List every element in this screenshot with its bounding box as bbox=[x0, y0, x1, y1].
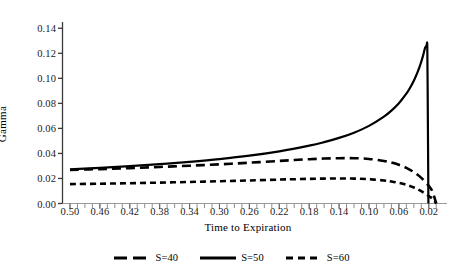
x-axis-tick-label: 0.50 bbox=[61, 206, 80, 217]
gamma-vs-time-to-expiration-chart: 0.000.020.040.060.080.100.120.14 0.500.4… bbox=[0, 0, 464, 280]
legend-swatch-s60 bbox=[286, 253, 322, 263]
legend-entry-s60[interactable]: S=60 bbox=[286, 252, 350, 263]
y-axis-tick-label: 0.04 bbox=[12, 148, 56, 159]
legend-entry-s40[interactable]: S=40 bbox=[114, 252, 178, 263]
x-axis-tick-label: 0.10 bbox=[360, 206, 379, 217]
x-axis-tick-label: 0.38 bbox=[150, 206, 169, 217]
series-line-s60 bbox=[70, 178, 436, 203]
x-axis-title: Time to Expiration bbox=[205, 221, 292, 233]
y-axis-tick-label: 0.08 bbox=[12, 98, 56, 109]
x-axis-tick-label: 0.34 bbox=[180, 206, 199, 217]
plot-canvas bbox=[0, 0, 464, 280]
y-axis-tick-label: 0.00 bbox=[12, 198, 56, 209]
x-axis-tick-label: 0.42 bbox=[120, 206, 139, 217]
y-axis-ticks bbox=[58, 28, 63, 203]
chart-legend: S=40S=50S=60 bbox=[0, 252, 464, 263]
x-axis-tick-label: 0.26 bbox=[240, 206, 259, 217]
x-axis-tick-label: 0.30 bbox=[210, 206, 229, 217]
x-axis-tick-label: 0.22 bbox=[270, 206, 289, 217]
y-axis-tick-label: 0.12 bbox=[12, 48, 56, 59]
x-axis-tick-label: 0.46 bbox=[90, 206, 109, 217]
data-series-layer bbox=[70, 42, 436, 203]
legend-label: S=40 bbox=[155, 252, 178, 263]
y-axis-tick-label: 0.10 bbox=[12, 73, 56, 84]
x-axis-tick-label: 0.02 bbox=[419, 206, 438, 217]
x-axis-tick-label: 0.18 bbox=[300, 206, 319, 217]
y-axis-tick-label: 0.14 bbox=[12, 23, 56, 34]
legend-swatch-s40 bbox=[114, 253, 150, 263]
y-axis-tick-label: 0.02 bbox=[12, 173, 56, 184]
x-axis-tick-label: 0.14 bbox=[330, 206, 349, 217]
legend-label: S=60 bbox=[327, 252, 350, 263]
y-axis-title: Gamma bbox=[0, 106, 8, 142]
legend-label: S=50 bbox=[241, 252, 264, 263]
legend-entry-s50[interactable]: S=50 bbox=[200, 252, 264, 263]
legend-swatch-s50 bbox=[200, 253, 236, 263]
y-axis-tick-label: 0.06 bbox=[12, 123, 56, 134]
x-axis-tick-label: 0.06 bbox=[389, 206, 408, 217]
